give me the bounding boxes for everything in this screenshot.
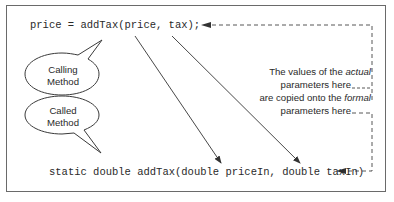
calling-label-line2: Method bbox=[47, 76, 79, 87]
note-line-1: The values of the actual bbox=[171, 65, 371, 78]
calling-code-line: price = addTax(price, tax); bbox=[30, 19, 200, 31]
calling-method-label: Calling Method bbox=[33, 64, 93, 88]
called-label-line1: Called bbox=[49, 105, 76, 116]
method-signature-line: static double addTax(double priceIn, dou… bbox=[49, 166, 364, 178]
called-method-label: Called Method bbox=[33, 105, 93, 129]
note-line-3: are copied onto the formal bbox=[171, 91, 371, 104]
calling-label-line1: Calling bbox=[48, 64, 77, 75]
explanation-note: The values of the actual parameters here… bbox=[171, 65, 371, 117]
called-label-line2: Method bbox=[47, 117, 79, 128]
note-line-4: parameters here bbox=[171, 104, 371, 117]
note-line-2: parameters here bbox=[171, 78, 371, 91]
